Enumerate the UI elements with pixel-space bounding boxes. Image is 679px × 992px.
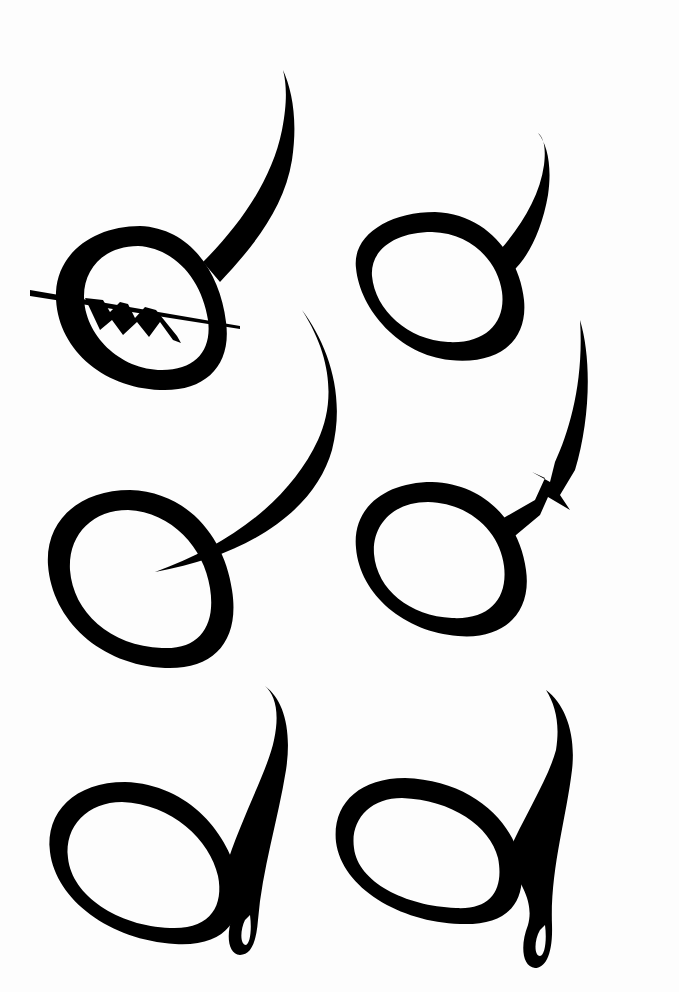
calligraphy-sheet xyxy=(0,0,679,992)
glyph-ring-looped-stem-variant xyxy=(336,690,573,968)
glyph-ring-looped-stem xyxy=(49,686,288,955)
glyph-ring-crossbar-zigzag xyxy=(30,70,294,390)
glyph-ring-notched-ascender xyxy=(356,320,588,636)
glyph-ring-ascender xyxy=(356,133,550,361)
